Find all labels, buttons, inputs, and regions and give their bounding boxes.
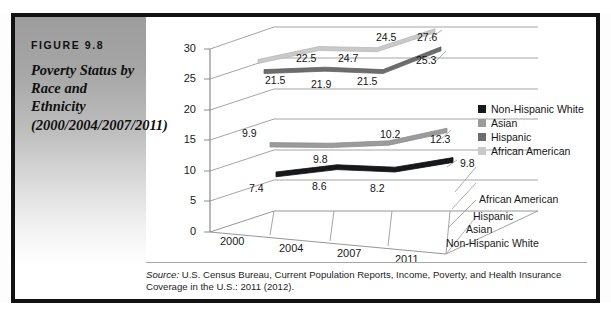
chart-legend: Non-Hispanic White Asian Hispanic Africa… [478, 103, 584, 158]
legend-swatch-icon [478, 147, 486, 155]
legend-label: Asian [491, 117, 517, 129]
figure-title: Poverty Status by Race and Ethnicity (20… [31, 61, 141, 134]
legend-item-asian: Asian [478, 117, 584, 129]
legend-label: African American [491, 145, 570, 157]
page-edge-top [0, 0, 611, 13]
source-divider [146, 262, 587, 263]
data-label-african-american-2000: 22.5 [296, 52, 316, 64]
z-tick-label-african-american: African American [479, 193, 558, 205]
data-label-african-american-2007: 24.5 [376, 31, 396, 43]
y-tick-label: 15 [174, 133, 196, 145]
source-text: U.S. Census Bureau, Current Population R… [146, 269, 561, 292]
legend-label: Hispanic [491, 131, 531, 143]
legend-swatch-icon [478, 105, 486, 113]
data-label-white-2000: 7.4 [249, 182, 264, 194]
series-asian [270, 128, 447, 147]
data-label-hispanic-2004: 21.9 [311, 78, 331, 90]
data-label-asian-2011: 12.3 [430, 133, 450, 145]
data-label-white-2004: 8.6 [312, 180, 327, 192]
x-tick-label-2000: 2000 [220, 235, 244, 247]
figure-caption-panel: FIGURE 9.8 Poverty Status by Race and Et… [15, 17, 146, 299]
y-tick-label: 0 [174, 225, 196, 237]
page-edge-bottom [0, 303, 611, 319]
data-label-asian-2007: 10.2 [380, 128, 400, 140]
data-label-hispanic-2011: 25.3 [416, 54, 436, 66]
z-tick-label-hispanic: Hispanic [473, 210, 513, 222]
figure-number: FIGURE 9.8 [31, 39, 104, 51]
legend-swatch-icon [478, 133, 486, 141]
y-tick-label: 25 [174, 72, 196, 84]
data-label-white-2011: 9.8 [460, 157, 475, 169]
data-label-hispanic-2007: 21.5 [357, 75, 377, 87]
data-label-hispanic-2000: 21.5 [265, 74, 285, 86]
legend-label: Non-Hispanic White [491, 103, 584, 115]
z-tick-label-asian: Asian [466, 223, 492, 235]
y-tick-label: 5 [174, 194, 196, 206]
chart-plot-area: 30 25 20 15 10 5 0 2000 2004 2007 2011 A… [146, 17, 596, 299]
data-label-african-american-2004: 24.7 [338, 52, 358, 64]
source-label: Source: [146, 269, 179, 280]
figure-root: FIGURE 9.8 Poverty Status by Race and Et… [0, 0, 611, 319]
figure-frame: FIGURE 9.8 Poverty Status by Race and Et… [11, 13, 600, 303]
data-label-asian-2000: 9.9 [242, 127, 257, 139]
x-tick-label-2011: 2011 [395, 253, 419, 265]
data-label-white-2007: 8.2 [370, 182, 385, 194]
y-tick-label: 20 [174, 103, 196, 115]
data-label-asian-2004: 9.8 [313, 153, 328, 165]
data-label-african-american-2011: 27.6 [417, 31, 437, 43]
legend-item-african-american: African American [478, 144, 584, 156]
legend-item-hispanic: Hispanic [478, 131, 584, 143]
x-tick-label-2007: 2007 [337, 247, 361, 259]
figure-inner: FIGURE 9.8 Poverty Status by Race and Et… [15, 17, 596, 299]
legend-swatch-icon [478, 119, 486, 127]
z-tick-label-non-hispanic-white: Non-Hispanic White [446, 237, 539, 249]
x-tick-label-2004: 2004 [279, 242, 303, 254]
y-tick-label: 10 [174, 164, 196, 176]
series-non-hispanic-white [276, 158, 453, 177]
source-note: Source: U.S. Census Bureau, Current Popu… [146, 269, 590, 294]
legend-item-non-hispanic-white: Non-Hispanic White [478, 103, 584, 115]
y-tick-label: 30 [174, 42, 196, 54]
